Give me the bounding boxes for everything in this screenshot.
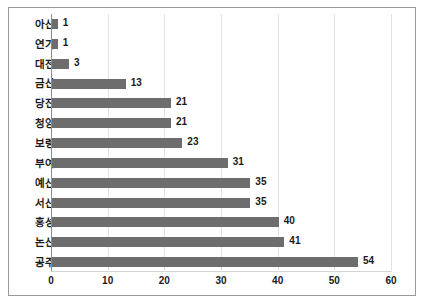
bar[interactable] bbox=[52, 19, 58, 29]
x-axis-tick-label: 30 bbox=[215, 274, 226, 288]
category-label: 대전 bbox=[15, 57, 55, 71]
bar[interactable] bbox=[52, 39, 58, 49]
category-label: 청양 bbox=[15, 116, 55, 130]
bar[interactable] bbox=[52, 158, 228, 168]
bar-row[interactable]: 41 bbox=[51, 232, 391, 252]
category-axis-labels: 아산연기대전금산당진청양보령부여예산서산홍성논산공주 bbox=[11, 14, 55, 272]
category-label: 연기 bbox=[15, 37, 55, 51]
bar[interactable] bbox=[52, 257, 358, 267]
bar-value-label: 41 bbox=[289, 234, 300, 248]
bar[interactable] bbox=[52, 98, 171, 108]
bar[interactable] bbox=[52, 217, 279, 227]
bar-row[interactable]: 40 bbox=[51, 212, 391, 232]
bar-value-label: 31 bbox=[233, 155, 244, 169]
bar-value-label: 1 bbox=[63, 16, 69, 30]
bar-value-label: 54 bbox=[363, 254, 374, 268]
bar-value-label: 35 bbox=[255, 175, 266, 189]
bar[interactable] bbox=[52, 178, 250, 188]
category-label: 보령 bbox=[15, 136, 55, 150]
bar-row[interactable]: 21 bbox=[51, 93, 391, 113]
category-label: 홍성 bbox=[15, 215, 55, 229]
chart-frame: 아산연기대전금산당진청양보령부여예산서산홍성논산공주 1131321212331… bbox=[8, 7, 416, 296]
bar-row[interactable]: 1 bbox=[51, 14, 391, 34]
bar-row[interactable]: 3 bbox=[51, 54, 391, 74]
category-label: 금산 bbox=[15, 76, 55, 90]
bar-value-label: 13 bbox=[131, 76, 142, 90]
value-axis-tick-labels: 0102030405060 bbox=[51, 274, 391, 290]
category-label: 예산 bbox=[15, 176, 55, 190]
x-axis-tick-label: 60 bbox=[385, 274, 396, 288]
bar-value-label: 23 bbox=[187, 135, 198, 149]
category-label: 부여 bbox=[15, 156, 55, 170]
x-axis-tick-label: 20 bbox=[159, 274, 170, 288]
bar-value-label: 21 bbox=[176, 95, 187, 109]
category-label: 서산 bbox=[15, 196, 55, 210]
bar-row[interactable]: 21 bbox=[51, 113, 391, 133]
bar-row[interactable]: 31 bbox=[51, 153, 391, 173]
category-label: 당진 bbox=[15, 96, 55, 110]
bar-row[interactable]: 35 bbox=[51, 193, 391, 213]
bar-row[interactable]: 54 bbox=[51, 252, 391, 272]
bar[interactable] bbox=[52, 59, 69, 69]
x-axis-tick-label: 50 bbox=[329, 274, 340, 288]
bar[interactable] bbox=[52, 118, 171, 128]
x-axis-tick-label: 0 bbox=[48, 274, 54, 288]
bar-row[interactable]: 13 bbox=[51, 74, 391, 94]
bar-row[interactable]: 23 bbox=[51, 133, 391, 153]
x-axis-tick-label: 10 bbox=[102, 274, 113, 288]
bar-value-label: 21 bbox=[176, 115, 187, 129]
bar-row[interactable]: 35 bbox=[51, 173, 391, 193]
bar[interactable] bbox=[52, 138, 182, 148]
bar-value-label: 35 bbox=[255, 195, 266, 209]
bar[interactable] bbox=[52, 79, 126, 89]
category-label: 공주 bbox=[15, 255, 55, 269]
bar-value-label: 3 bbox=[74, 56, 80, 70]
bar-value-label: 40 bbox=[284, 214, 295, 228]
plot-area: 11313212123313535404154 bbox=[51, 14, 391, 272]
bar[interactable] bbox=[52, 237, 284, 247]
category-label: 아산 bbox=[15, 17, 55, 31]
category-label: 논산 bbox=[15, 235, 55, 249]
x-axis-tick-label: 40 bbox=[272, 274, 283, 288]
bar-row[interactable]: 1 bbox=[51, 34, 391, 54]
bar-value-label: 1 bbox=[63, 36, 69, 50]
bar[interactable] bbox=[52, 198, 250, 208]
gridline bbox=[391, 14, 392, 272]
